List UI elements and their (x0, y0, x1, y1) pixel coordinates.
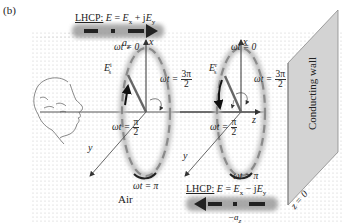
field-sub: s (214, 69, 216, 75)
frac-den: 2 (181, 80, 193, 89)
z-axis-label: z (252, 114, 256, 125)
frac-den: 2 (275, 80, 287, 89)
wt-prefix: ωt = (112, 122, 130, 132)
reflected-wave-equation: LHCP: E = Ex − jEy (186, 183, 266, 197)
eq-operator: + j (135, 12, 146, 23)
wt-prefix: ωt = (210, 122, 228, 132)
fraction: π2 (231, 118, 238, 137)
ellipse-1-left-label: ωt = π2 (112, 118, 139, 137)
incident-wave-equation: LHCP: E = Ex + jEy (75, 12, 155, 26)
eq-sub-1: x (129, 18, 133, 26)
y-axis-label-1: y (88, 142, 92, 153)
ellipse-2-left-label: ωt = π2 (210, 118, 237, 137)
ellipse-2-field-label: Ers (209, 62, 216, 75)
eq-sub-2: y (152, 18, 156, 26)
fraction: π2 (133, 118, 140, 137)
ellipse-1-top-label: ωt = 0 (114, 42, 139, 52)
reflected-direction-label: −az (228, 212, 241, 224)
ellipse-1-right-label: ωt = 3π2 (160, 70, 192, 89)
eq-sub-2: y (263, 189, 267, 197)
conducting-wall-label: Conducting wall (306, 57, 318, 130)
reflected-wave-title: LHCP: (186, 183, 214, 194)
frac-den: 2 (231, 128, 238, 137)
panel-label: (b) (3, 4, 16, 16)
wt-prefix: ωt = (160, 74, 178, 84)
fraction: 3π2 (275, 70, 287, 89)
x-axis-label-1: x (149, 36, 153, 47)
ellipse-1-field-label: Eis (104, 62, 111, 75)
direction-sub: z (239, 217, 242, 224)
field-sub: s (109, 69, 111, 75)
air-region-label: Air (118, 193, 133, 205)
field-sup: i (110, 62, 112, 68)
x-axis-label-2: x (243, 36, 247, 47)
polarization-diagram: (b) LHCP: E = Ex + jEy az LHCP: E = Ex −… (0, 0, 342, 224)
incident-wave-title: LHCP: (75, 12, 103, 23)
frac-den: 2 (133, 128, 140, 137)
ellipse-1-bottom-label: ωt = π (133, 181, 158, 191)
fraction: 3π2 (181, 70, 193, 89)
eq-lhs: E (217, 183, 223, 194)
direction-symbol: −a (228, 212, 239, 222)
eq-lhs: E (106, 12, 112, 23)
ellipse-2-bottom-label: ωt = π (233, 171, 258, 181)
field-sup: r (215, 62, 217, 68)
ellipse-2-right-label: ωt = 3π2 (254, 70, 286, 89)
eq-operator: − j (246, 183, 257, 194)
wt-prefix: ωt = (254, 74, 272, 84)
y-axis-label-2: y (183, 150, 187, 161)
reflected-wave-arrow (186, 197, 278, 211)
eq-sub-1: x (240, 189, 244, 197)
diagram-graphics (0, 0, 342, 224)
